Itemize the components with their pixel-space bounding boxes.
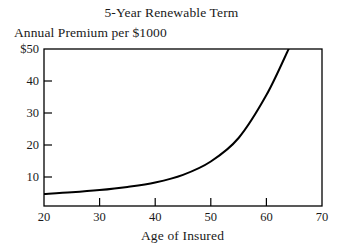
premium-curve: [44, 49, 289, 194]
x-tick-label: 70: [302, 210, 342, 225]
y-tick-label: $50: [0, 42, 39, 57]
x-tick-label: 60: [246, 210, 286, 225]
x-tick-label: 50: [191, 210, 231, 225]
x-tick-label: 30: [80, 210, 120, 225]
x-axis-ticks: [100, 198, 267, 206]
y-tick-label: 20: [0, 138, 39, 153]
x-tick-label: 40: [135, 210, 175, 225]
y-axis-ticks: [44, 81, 52, 177]
y-tick-label: 40: [0, 74, 39, 89]
chart-figure: 5-Year Renewable Term Annual Premium per…: [0, 0, 343, 249]
x-axis-label: Age of Insured: [0, 228, 343, 244]
plot-frame: [44, 49, 322, 206]
y-tick-label: 30: [0, 106, 39, 121]
x-tick-label: 20: [24, 210, 64, 225]
y-tick-label: 10: [0, 170, 39, 185]
